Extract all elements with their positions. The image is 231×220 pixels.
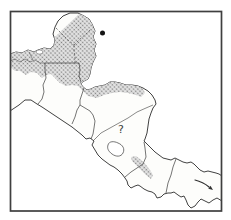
question-mark-label: ? bbox=[118, 123, 124, 136]
range-map-canvas: ? bbox=[0, 0, 231, 220]
distribution-map: ? bbox=[0, 0, 231, 220]
locality-dot-icon bbox=[100, 31, 105, 36]
coastal-lagoon bbox=[36, 50, 43, 54]
